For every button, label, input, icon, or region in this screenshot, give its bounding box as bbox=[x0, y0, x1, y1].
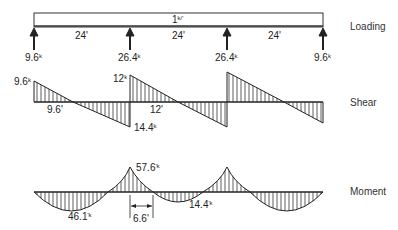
span-length-2: 24' bbox=[172, 30, 185, 41]
arrow-up-icon bbox=[223, 28, 231, 50]
moment-center-span-label: 14.4'k bbox=[189, 199, 213, 210]
shear-title: Shear bbox=[350, 97, 377, 108]
span-length-3: 24' bbox=[268, 30, 281, 41]
shear-negative-label: 14.4k bbox=[134, 122, 156, 133]
arrow-up-icon bbox=[319, 28, 327, 50]
moment-span-max-label: 46.1'k bbox=[68, 211, 92, 222]
moment-inflection-distance-label: 6.6' bbox=[133, 213, 149, 224]
reaction-label-3: 26.4k bbox=[215, 52, 237, 63]
moment-support-peak-label: 57.6'k bbox=[136, 162, 160, 173]
arrow-up-icon bbox=[126, 28, 134, 50]
shear-mid-zero-distance-label: 12' bbox=[150, 104, 163, 115]
shear-diagram bbox=[34, 72, 323, 127]
shear-mid-positive-label: 12k bbox=[113, 73, 127, 84]
moment-title: Moment bbox=[350, 186, 386, 197]
reaction-label-1: 9.6k bbox=[25, 52, 42, 63]
shear-zero-distance-label: 9.6' bbox=[47, 104, 63, 115]
loading-title: Loading bbox=[350, 21, 386, 32]
reaction-label-2: 26.4k bbox=[118, 52, 140, 63]
span-length-1: 24' bbox=[75, 30, 88, 41]
shear-left-end-label: 9.6k bbox=[14, 76, 31, 87]
diagram-canvas bbox=[0, 0, 398, 230]
arrow-up-icon bbox=[30, 28, 38, 50]
distributed-load-label: 1k/' bbox=[172, 14, 183, 25]
reaction-label-4: 9.6k bbox=[314, 52, 331, 63]
